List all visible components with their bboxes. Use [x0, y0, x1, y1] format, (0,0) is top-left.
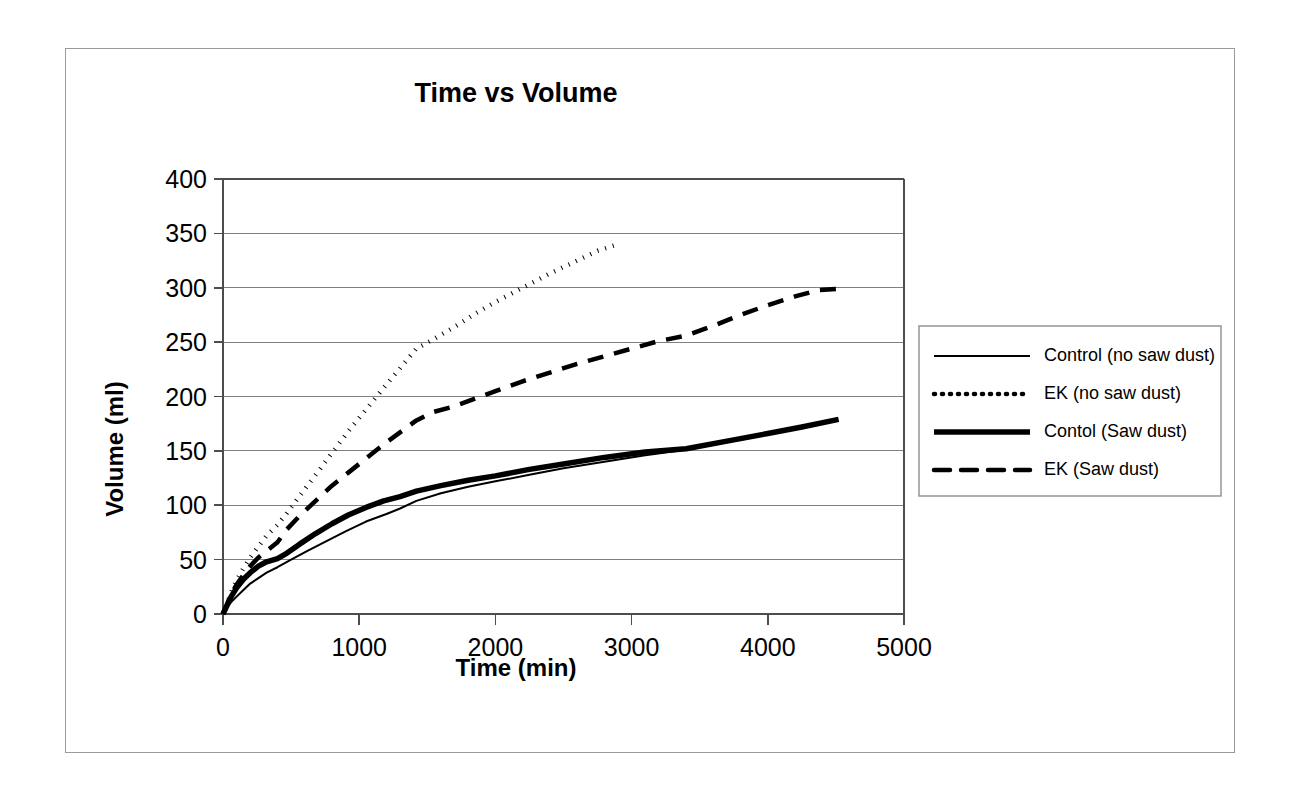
- chart-outer-frame: Time vs Volume Volume (ml) Time (min) 05…: [65, 48, 1235, 753]
- y-tick-label: 50: [179, 546, 207, 574]
- y-tick-label: 150: [165, 437, 207, 465]
- x-tick-label: 2000: [468, 633, 524, 661]
- y-tick-label: 350: [165, 219, 207, 247]
- y-tick-label: 0: [193, 600, 207, 628]
- legend-label-3: EK (Saw dust): [1044, 459, 1159, 479]
- y-axis-title: Volume (ml): [101, 381, 128, 517]
- figure-root: Time vs Volume Volume (ml) Time (min) 05…: [0, 0, 1294, 792]
- y-tick-label: 300: [165, 274, 207, 302]
- series-line-3: [223, 289, 837, 614]
- time-vs-volume-chart: Time vs Volume Volume (ml) Time (min) 05…: [66, 49, 1236, 754]
- chart-legend: Control (no saw dust)EK (no saw dust)Con…: [919, 326, 1221, 496]
- legend-label-1: EK (no saw dust): [1044, 383, 1181, 403]
- legend-label-2: Contol (Saw dust): [1044, 421, 1187, 441]
- y-tick-label: 400: [165, 165, 207, 193]
- y-axis-ticks: 050100150200250300350400: [165, 165, 223, 628]
- x-tick-label: 3000: [604, 633, 660, 661]
- x-tick-label: 5000: [876, 633, 932, 661]
- chart-title: Time vs Volume: [414, 78, 617, 108]
- x-tick-label: 0: [216, 633, 230, 661]
- data-series-group: [223, 244, 839, 614]
- x-tick-label: 4000: [740, 633, 796, 661]
- y-tick-label: 100: [165, 491, 207, 519]
- series-line-0: [223, 420, 836, 614]
- y-tick-label: 200: [165, 383, 207, 411]
- x-tick-label: 1000: [331, 633, 387, 661]
- legend-label-0: Control (no saw dust): [1044, 345, 1215, 365]
- y-tick-label: 250: [165, 328, 207, 356]
- series-line-2: [223, 419, 839, 614]
